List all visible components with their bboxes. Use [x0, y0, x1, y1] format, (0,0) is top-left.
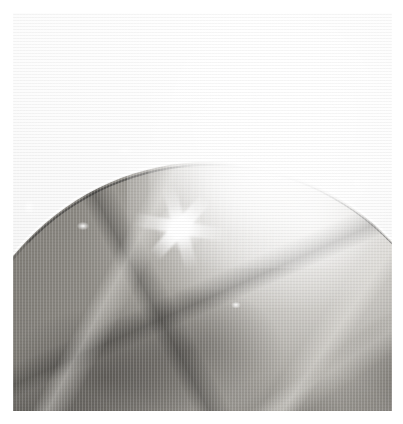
round-dish: [13, 161, 392, 411]
photograph: [13, 13, 392, 411]
material-facets: [13, 161, 392, 411]
photo-border: [13, 13, 392, 411]
photo-alt-text: Grayscale photograph of a shallow round …: [0, 0, 1, 1]
screenshot-root: Grayscale photograph of a shallow round …: [0, 0, 403, 424]
